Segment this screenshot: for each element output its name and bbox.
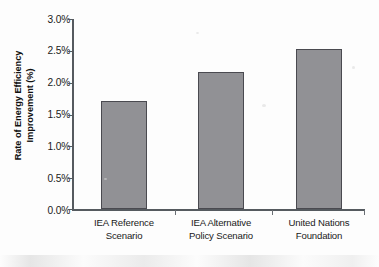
x-tick-mark-2 bbox=[272, 210, 273, 215]
bar-chart-figure: Rate of Energy Efficiency Improvement (%… bbox=[0, 0, 379, 267]
y-tick-label-1.0: 1.0% bbox=[30, 142, 70, 152]
y-tick-label-0.0: 0.0% bbox=[30, 206, 70, 216]
category-label-united-nations-foundation: United Nations Foundation bbox=[261, 216, 377, 242]
x-tick-mark-3 bbox=[364, 210, 365, 215]
y-axis-title-line-1: Rate of Energy Efficiency bbox=[14, 50, 26, 160]
y-tick-mark-0.5 bbox=[68, 178, 73, 179]
x-axis-line bbox=[72, 209, 365, 211]
category-label-line-2: Foundation bbox=[261, 229, 377, 242]
y-tick-mark-2.0 bbox=[68, 83, 73, 84]
bar-iea-reference-scenario[interactable] bbox=[101, 101, 147, 209]
plot-area bbox=[72, 19, 365, 210]
y-tick-mark-2.5 bbox=[68, 51, 73, 52]
y-tick-mark-3.0 bbox=[68, 19, 73, 20]
y-tick-label-2.5: 2.5% bbox=[30, 46, 70, 56]
y-tick-mark-0.0 bbox=[68, 209, 73, 210]
y-tick-label-1.5: 1.5% bbox=[30, 110, 70, 120]
bar-iea-alternative-policy-scenario[interactable] bbox=[198, 72, 244, 209]
y-tick-mark-1.5 bbox=[68, 115, 73, 116]
y-tick-label-3.0: 3.0% bbox=[30, 15, 70, 25]
y-tick-label-2.0: 2.0% bbox=[30, 78, 70, 88]
y-tick-label-0.5: 0.5% bbox=[30, 174, 70, 184]
bar-united-nations-foundation[interactable] bbox=[296, 49, 342, 209]
x-tick-mark-1 bbox=[175, 210, 176, 215]
y-tick-mark-1.0 bbox=[68, 146, 73, 147]
category-label-line-1: United Nations bbox=[261, 216, 377, 229]
scan-smudge bbox=[0, 255, 379, 267]
